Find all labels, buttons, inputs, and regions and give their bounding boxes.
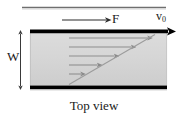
width-label: W xyxy=(7,50,19,63)
couette-flow-diagram: F v0 W Top view xyxy=(0,0,188,118)
force-label: F xyxy=(112,12,119,25)
top-divider-rule xyxy=(22,8,166,10)
figure-caption: Top view xyxy=(0,98,188,114)
fluid-region xyxy=(30,33,167,87)
stationary-plate-bottom-highlight xyxy=(30,89,167,90)
plate-velocity-label: v0 xyxy=(156,10,166,24)
plate-velocity-subscript: 0 xyxy=(162,15,166,24)
stationary-plate-bottom xyxy=(30,86,167,90)
